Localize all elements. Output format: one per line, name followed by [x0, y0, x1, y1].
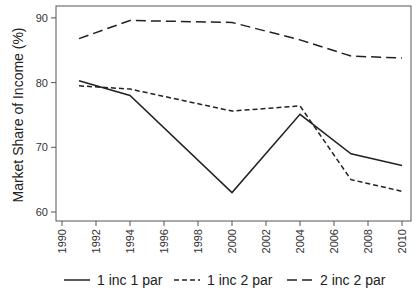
x-tick-label: 1996	[158, 229, 170, 253]
x-axis: 1990199219941996199820002002200420062008…	[56, 221, 408, 253]
series-lines	[79, 20, 402, 192]
x-tick-label: 2004	[294, 229, 306, 253]
x-tick-label: 1992	[90, 229, 102, 253]
x-tick-label: 2006	[328, 229, 340, 253]
x-tick-label: 1994	[124, 229, 136, 253]
legend-label: 1 inc 2 par	[207, 272, 273, 288]
y-tick-label: 90	[36, 12, 48, 24]
series-line-1	[79, 81, 402, 193]
series-line-2	[79, 86, 402, 191]
series-line-3	[79, 20, 402, 58]
legend-label: 2 inc 2 par	[320, 272, 386, 288]
x-tick-label: 1998	[192, 229, 204, 253]
x-tick-label: 2002	[260, 229, 272, 253]
x-tick-label: 2008	[362, 229, 374, 253]
y-axis: 60708090	[36, 12, 56, 218]
y-tick-label: 80	[36, 77, 48, 89]
y-axis-label: Market Share of Income (%)	[10, 27, 26, 202]
legend-label: 1 inc 1 par	[97, 272, 163, 288]
legend: 1 inc 1 par1 inc 2 par2 inc 2 par	[64, 272, 386, 288]
y-tick-label: 60	[36, 206, 48, 218]
line-chart: 60708090 1990199219941996199820002002200…	[0, 0, 420, 296]
x-tick-label: 2000	[226, 229, 238, 253]
y-tick-label: 70	[36, 141, 48, 153]
x-tick-label: 2010	[396, 229, 408, 253]
plot-frame	[56, 6, 411, 221]
x-tick-label: 1990	[56, 229, 68, 253]
